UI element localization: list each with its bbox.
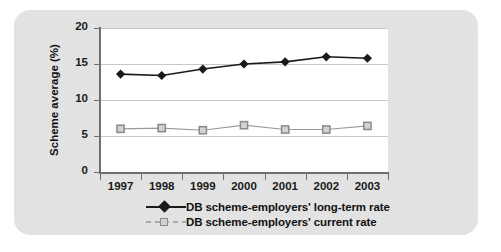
y-axis-title: Scheme average (%): [48, 44, 60, 156]
plot-area: [100, 28, 388, 172]
y-tick-mark: [94, 172, 100, 173]
gridline: [100, 100, 388, 101]
legend-label-current: DB scheme-employers' current rate: [186, 216, 377, 228]
gridline: [100, 28, 388, 29]
x-axis-line: [99, 172, 389, 174]
square-marker-icon: [146, 215, 186, 229]
legend-item-current: DB scheme-employers' current rate: [146, 214, 446, 229]
gridline: [100, 64, 388, 65]
y-tick-mark: [94, 136, 100, 137]
y-tick-mark: [94, 28, 100, 29]
chart-legend: DB scheme-employers' long-term rate DB s…: [146, 199, 446, 229]
chart-figure: 05101520 1997199819992000200120022003 Sc…: [0, 0, 501, 252]
legend-label-long-term: DB scheme-employers' long-term rate: [186, 201, 390, 213]
y-tick-mark: [94, 100, 100, 101]
y-tick-mark: [94, 64, 100, 65]
gridline: [100, 136, 388, 137]
x-tick-label: 2003: [337, 180, 397, 192]
legend-item-long-term: DB scheme-employers' long-term rate: [146, 199, 446, 214]
diamond-marker-icon: [146, 200, 186, 214]
